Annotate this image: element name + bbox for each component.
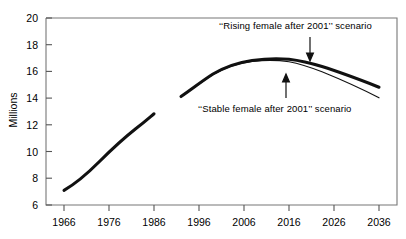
x-tick-label-2026: 2026 xyxy=(314,216,354,228)
stable-scenario-annotation: ‘‘Stable female after 2001’’ scenario xyxy=(198,103,352,114)
x-tick-label-2036: 2036 xyxy=(359,216,399,228)
rising-annotation-arrow-icon xyxy=(307,37,314,61)
series-rising-female-line xyxy=(181,59,379,97)
x-tick-label-1966: 1966 xyxy=(44,216,84,228)
chart-container: Millions 20 18 16 14 12 10 8 6 1966 1976… xyxy=(0,0,406,239)
y-tick-label-12: 12 xyxy=(14,119,38,131)
series-historical-line xyxy=(64,114,154,191)
rising-scenario-annotation: ‘‘Rising female after 2001’’ scenario xyxy=(219,20,372,31)
series-stable-female-line xyxy=(181,60,379,97)
y-tick-label-16: 16 xyxy=(14,65,38,77)
x-tick-label-1996: 1996 xyxy=(179,216,219,228)
y-axis-ticks xyxy=(46,18,52,205)
x-axis-ticks xyxy=(64,205,379,211)
x-tick-label-2016: 2016 xyxy=(269,216,309,228)
y-tick-label-14: 14 xyxy=(14,92,38,104)
x-tick-label-1976: 1976 xyxy=(89,216,129,228)
x-tick-label-1986: 1986 xyxy=(134,216,174,228)
y-tick-label-6: 6 xyxy=(14,199,38,211)
x-tick-label-2006: 2006 xyxy=(224,216,264,228)
y-axis-label: Millions xyxy=(7,75,19,145)
line-chart-plot xyxy=(0,0,406,239)
y-tick-label-10: 10 xyxy=(14,146,38,158)
y-tick-label-8: 8 xyxy=(14,172,38,184)
stable-annotation-arrow-icon xyxy=(283,74,290,98)
y-tick-label-20: 20 xyxy=(14,12,38,24)
y-tick-label-18: 18 xyxy=(14,39,38,51)
